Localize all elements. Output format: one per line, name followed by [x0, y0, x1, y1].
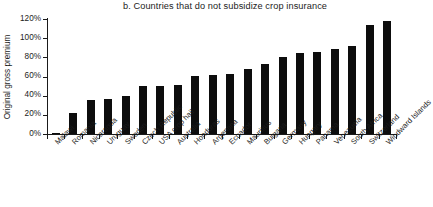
chart-title: b. Countries that do not subsidize crop …	[60, 1, 390, 11]
y-axis-title: Original gross premium	[3, 35, 12, 120]
y-axis-tick-label: 80%	[25, 52, 41, 61]
plot-area	[47, 19, 396, 134]
y-axis-tick-label: 40%	[25, 90, 41, 99]
y-axis-tick-label: 20%	[25, 109, 41, 118]
y-axis-tick-label: 0%	[29, 129, 41, 138]
y-axis-tick-label: 120%	[20, 14, 41, 23]
y-axis-title-container: Original gross premium	[0, 19, 14, 135]
y-axis-tick-label: 60%	[25, 71, 41, 80]
y-axis-tick-label: 100%	[20, 33, 41, 42]
x-axis-tick-mark	[47, 135, 48, 139]
